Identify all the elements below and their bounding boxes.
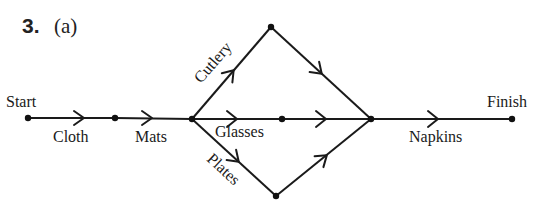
- edges: [28, 27, 512, 196]
- node-start: [25, 115, 31, 121]
- label-cloth: Cloth: [53, 128, 89, 145]
- question-number: 3.: [22, 14, 40, 37]
- activity-network-diagram: 3. (a): [0, 0, 539, 216]
- node-4: [368, 116, 374, 122]
- label-napkins: Napkins: [409, 128, 462, 146]
- node-2: [112, 115, 118, 121]
- edge-mats: [115, 118, 192, 119]
- label-start: Start: [6, 93, 37, 110]
- label-cutlery: Cutlery: [190, 39, 235, 87]
- edge-bottom-to-n4: [276, 119, 371, 196]
- label-glasses: Glasses: [215, 123, 264, 140]
- node-3: [189, 116, 195, 122]
- node-finish: [509, 116, 515, 122]
- node-bottom: [273, 193, 279, 199]
- nodes: [25, 24, 515, 199]
- node-top: [268, 24, 274, 30]
- label-mats: Mats: [135, 128, 167, 145]
- arrowheads: [74, 62, 438, 167]
- question-part: (a): [54, 14, 77, 38]
- label-finish: Finish: [487, 93, 527, 110]
- node-mid: [279, 116, 285, 122]
